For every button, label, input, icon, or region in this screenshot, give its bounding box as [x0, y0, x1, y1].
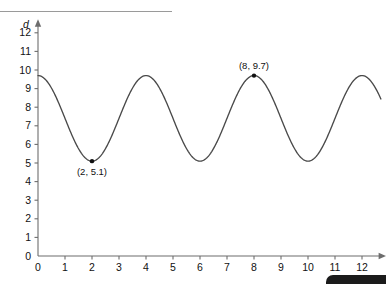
- maximum-point-marker: [252, 73, 256, 77]
- x-axis-arrow: [379, 253, 386, 259]
- minimum-point-label: (2, 5.1): [77, 166, 107, 177]
- x-axis-tick-label: 10: [302, 261, 314, 273]
- x-axis-tick-label: 11: [330, 261, 341, 273]
- x-axis-tick-label: 0: [35, 261, 41, 273]
- x-axis-tick-label: 7: [224, 261, 230, 273]
- x-axis-tick-label: 2: [89, 261, 95, 273]
- y-axis-tick-label: 10: [19, 64, 31, 76]
- y-axis-tick-label: 3: [25, 194, 31, 206]
- x-axis-tick-label: 6: [197, 261, 203, 273]
- y-axis-tick-label: 1: [25, 231, 31, 243]
- x-axis-tick-label: 12: [356, 261, 368, 273]
- y-axis-tick-label: 2: [25, 212, 31, 224]
- maximum-point-label: (8, 9.7): [239, 60, 269, 71]
- chart-figure: 01234567891011120123456789101112dt(2, 5.…: [0, 0, 386, 284]
- x-axis-tick-label: 8: [251, 261, 257, 273]
- x-axis-tick-label: 9: [278, 261, 284, 273]
- y-axis-tick-label: 8: [25, 101, 31, 113]
- x-axis-tick-label: 1: [62, 261, 68, 273]
- minimum-point-marker: [90, 159, 94, 163]
- y-axis-tick-label: 4: [25, 175, 31, 187]
- y-axis-arrow: [35, 19, 41, 27]
- x-axis-tick-label: 5: [170, 261, 176, 273]
- chart-plot-area: 01234567891011120123456789101112dt(2, 5.…: [0, 0, 386, 284]
- y-axis-tick-label: 5: [25, 157, 31, 169]
- x-axis-tick-label: 3: [116, 261, 122, 273]
- x-axis-tick-label: 4: [143, 261, 149, 273]
- y-axis-tick-label: 6: [25, 138, 31, 150]
- y-axis-tick-label: 11: [20, 45, 31, 57]
- y-axis-tick-label: 9: [25, 82, 31, 94]
- data-curve: [38, 76, 381, 162]
- y-axis-tick-label: 0: [25, 250, 31, 262]
- y-axis-tick-label: 7: [25, 119, 31, 131]
- corner-band-decoration: [326, 275, 386, 284]
